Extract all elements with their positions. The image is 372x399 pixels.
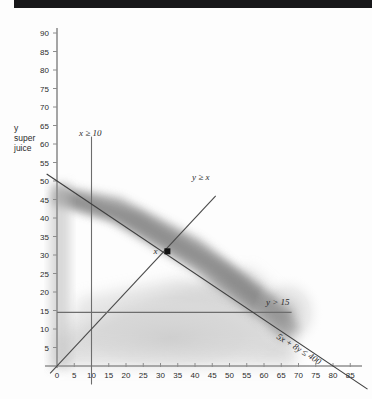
y-tick-label: 30 [40, 251, 49, 260]
x-tick-label: 70 [294, 371, 303, 380]
x-tick-label: 30 [156, 371, 165, 380]
y-tick-label: 40 [40, 214, 49, 223]
y-tick-label: 50 [40, 177, 49, 186]
y-tick-label: 5 [45, 344, 50, 353]
x-tick-label: 65 [277, 371, 286, 380]
x-tick-label: 80 [329, 371, 338, 380]
page-top-black-bar [14, 0, 372, 8]
y-tick-label: 90 [40, 29, 49, 38]
x-tick-label: 75 [311, 371, 320, 380]
y-tick-label: 35 [40, 233, 49, 242]
y-tick-label: 15 [40, 307, 49, 316]
optimum-point-label: x [152, 246, 157, 256]
x-tick-label: 0 [55, 371, 60, 380]
y-tick-label: 85 [40, 48, 49, 57]
y-tick-label: 45 [40, 196, 49, 205]
coordinate-plot: 51015202530354045505560657075808590 0510… [0, 8, 372, 399]
x-tick-label: 45 [208, 371, 217, 380]
x-tick-label: 15 [104, 371, 113, 380]
y-tick-label: 70 [40, 103, 49, 112]
x-tick-label: 20 [122, 371, 131, 380]
y-tick-label: 80 [40, 66, 49, 75]
x-tick-label: 5 [72, 371, 77, 380]
y-tick-label: 60 [40, 140, 49, 149]
y-axis-title-line-1: y [14, 123, 19, 133]
y-tick-label: 75 [40, 85, 49, 94]
label-x-ge-10: x ≥ 10 [78, 128, 102, 138]
x-tick-label: 55 [242, 371, 251, 380]
x-tick-label: 25 [139, 371, 148, 380]
figure-page: 51015202530354045505560657075808590 0510… [0, 0, 372, 399]
label-y-ge-x: y ≥ x [191, 172, 209, 182]
y-axis-title: y super juice [13, 123, 35, 153]
x-tick-label: 35 [173, 371, 182, 380]
y-tick-label: 20 [40, 288, 49, 297]
x-tick-label: 40 [191, 371, 200, 380]
y-tick-label: 55 [40, 159, 49, 168]
y-axis-title-line-2: super [14, 133, 35, 143]
x-tick-label: 50 [225, 371, 234, 380]
y-tick-label: 25 [40, 270, 49, 279]
optimum-point-marker [164, 248, 170, 254]
y-tick-label: 65 [40, 122, 49, 131]
x-tick-label: 60 [260, 371, 269, 380]
y-axis-title-line-3: juice [13, 143, 32, 153]
chart-canvas: 51015202530354045505560657075808590 0510… [0, 8, 372, 399]
label-y-ge-15: y > 15 [265, 297, 290, 307]
y-tick-label: 10 [40, 325, 49, 334]
